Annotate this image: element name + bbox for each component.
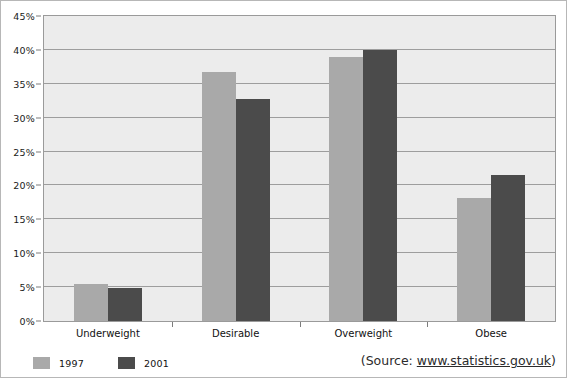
bar-obese-1997 — [457, 198, 491, 321]
gridline — [44, 151, 555, 152]
legend-entry-1997: 1997 — [33, 357, 84, 369]
gridline — [44, 117, 555, 118]
gridline — [44, 15, 555, 16]
gridline — [44, 184, 555, 185]
y-axis-tick-label: 0% — [20, 316, 35, 327]
y-axis-tick-label: 40% — [13, 44, 35, 55]
legend-entry-2001: 2001 — [118, 357, 169, 369]
y-axis-tick-mark — [36, 287, 41, 288]
bar-obese-2001 — [491, 175, 525, 321]
bar-desirable-2001 — [236, 99, 270, 321]
x-axis-label-underweight: Underweight — [76, 328, 140, 339]
legend-swatch-2001 — [118, 357, 135, 369]
y-axis-tick-mark — [36, 219, 41, 220]
y-axis-tick-mark — [36, 185, 41, 186]
y-axis-tick-mark — [36, 16, 41, 17]
x-axis-tick-mark — [427, 322, 428, 327]
x-axis: UnderweightDesirableOverweightObese — [43, 322, 556, 342]
source-suffix: ) — [551, 353, 556, 368]
x-axis-label-obese: Obese — [475, 328, 507, 339]
plot-inner — [44, 16, 555, 321]
legend-label-1997: 1997 — [59, 358, 84, 369]
source-prefix: (Source: — [361, 353, 417, 368]
y-axis-tick-label: 25% — [13, 146, 35, 157]
chart-legend: 19972001 — [33, 355, 203, 371]
y-axis-tick-label: 10% — [13, 248, 35, 259]
x-axis-tick-mark — [300, 322, 301, 327]
bar-underweight-1997 — [74, 284, 108, 321]
y-axis-tick-label: 35% — [13, 78, 35, 89]
y-axis-tick-mark — [36, 321, 41, 322]
source-url: www.statistics.gov.uk — [417, 353, 551, 368]
y-axis-tick-mark — [36, 83, 41, 84]
legend-swatch-1997 — [33, 357, 50, 369]
plot-area — [43, 15, 556, 322]
y-axis-tick-mark — [36, 253, 41, 254]
y-axis-tick-label: 45% — [13, 11, 35, 22]
source-note: (Source: www.statistics.gov.uk) — [361, 353, 556, 368]
x-axis-tick-mark — [172, 322, 173, 327]
bar-underweight-2001 — [108, 288, 142, 321]
y-axis-tick-mark — [36, 117, 41, 118]
y-axis-tick-mark — [36, 151, 41, 152]
gridline — [44, 49, 555, 50]
x-axis-label-overweight: Overweight — [334, 328, 392, 339]
bar-overweight-1997 — [329, 57, 363, 321]
y-axis-tick-label: 20% — [13, 180, 35, 191]
y-axis-tick-label: 5% — [20, 282, 35, 293]
x-axis-label-desirable: Desirable — [212, 328, 259, 339]
y-axis-tick-label: 30% — [13, 112, 35, 123]
bar-desirable-1997 — [202, 72, 236, 321]
chart-figure: 0%5%10%15%20%25%30%35%40%45% Underweight… — [0, 0, 567, 378]
y-axis: 0%5%10%15%20%25%30%35%40%45% — [1, 15, 41, 322]
bar-overweight-2001 — [363, 50, 397, 321]
y-axis-tick-label: 15% — [13, 214, 35, 225]
legend-label-2001: 2001 — [144, 358, 169, 369]
gridline — [44, 83, 555, 84]
y-axis-tick-mark — [36, 49, 41, 50]
